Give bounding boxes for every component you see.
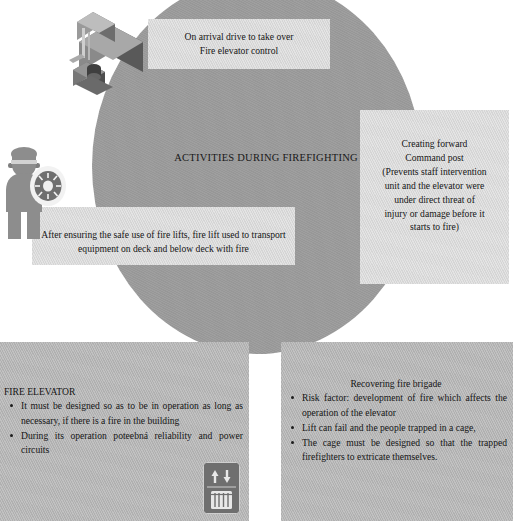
callout-fire-lifts-line1: After ensuring the safe use of fire lift…: [41, 228, 286, 242]
fire-service-badge-emblem: [29, 165, 67, 207]
list-item: Lift can fail and the people trapped in …: [285, 421, 507, 435]
callout-fire-lifts-line2: equipment on deck and below deck with fi…: [41, 242, 286, 256]
callout-arrival-line1: On arrival drive to take over: [156, 30, 322, 44]
callout-fire-lifts: After ensuring the safe use of fire lift…: [32, 207, 295, 265]
page-title: ACTIVITIES DURING FIREFIGHTING: [150, 152, 382, 163]
elevator-sign-icon: [203, 462, 240, 514]
callout-command-post-line2: Command post: [365, 151, 504, 165]
elevator-machine-room-illustration: [63, 2, 149, 102]
callout-command-post-line1: Creating forward: [365, 137, 504, 151]
list-item: The cage must be designed so that the tr…: [285, 436, 507, 464]
list-item: Risk factor: development of fire which a…: [285, 391, 507, 419]
list-item: It must be designed so as to be in opera…: [4, 399, 243, 427]
callout-command-post: Creating forward Command post (Prevents …: [360, 110, 509, 284]
panel-recovering-fire-brigade: Recovering fire brigade Risk factor: dev…: [281, 342, 513, 521]
list-item: During its operation poteebná reliabilit…: [4, 429, 243, 457]
callout-command-post-line5: under direct threat of: [365, 193, 504, 207]
callout-command-post-line4: unit and the elevator were: [365, 179, 504, 193]
panel-fire-elevator-heading: FIRE ELEVATOR: [4, 385, 243, 398]
callout-command-post-line6: injury or damage before it: [365, 207, 504, 221]
callout-arrival-line2: Fire elevator control: [156, 44, 322, 58]
panel-recovering-fire-brigade-list: Risk factor: development of fire which a…: [285, 391, 507, 463]
panel-fire-elevator-list: It must be designed so as to be in opera…: [4, 399, 243, 456]
slide-canvas: ACTIVITIES DURING FIREFIGHTING: [0, 0, 513, 521]
callout-command-post-line7: starts to fire): [365, 220, 504, 234]
callout-arrival: On arrival drive to take over Fire eleva…: [148, 19, 330, 69]
callout-command-post-line3: (Prevents staff intervention: [365, 165, 504, 179]
panel-recovering-fire-brigade-heading: Recovering fire brigade: [285, 377, 507, 390]
